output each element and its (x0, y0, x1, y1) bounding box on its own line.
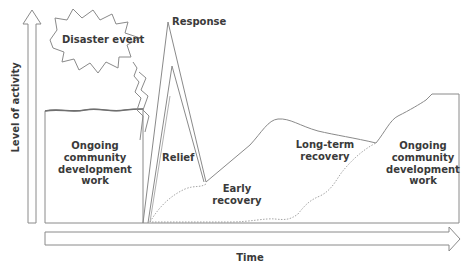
ongoing-development-left-label: Ongoing community development work (55, 140, 135, 187)
x-axis-label: Time (225, 252, 275, 264)
early-recovery-line-2: recovery (212, 195, 262, 207)
early-recovery-line-1: Early (212, 183, 262, 195)
ongoing-development-right-label: Ongoing community development work (383, 140, 463, 187)
ongoing-right-line-4: work (383, 175, 463, 187)
ongoing-right-line-1: Ongoing (383, 140, 463, 152)
response-label: Response (172, 16, 226, 28)
long-term-recovery-label: Long-term recovery (290, 139, 360, 163)
x-axis-arrow (45, 227, 460, 251)
ongoing-left-line-2: community (55, 152, 135, 164)
y-axis-label: Level of activity (10, 73, 21, 153)
long-term-line-1: Long-term (290, 139, 360, 151)
lightning-bolt-2 (139, 72, 149, 132)
relief-curve (148, 66, 204, 223)
ongoing-left-line-4: work (55, 175, 135, 187)
early-recovery-dotted-curve (150, 184, 206, 222)
relief-label: Relief (162, 152, 194, 164)
long-term-line-2: recovery (290, 151, 360, 163)
y-axis-arrow (23, 10, 41, 223)
ongoing-left-line-1: Ongoing (55, 140, 135, 152)
wavy-line (45, 109, 143, 111)
ongoing-left-line-3: development (55, 164, 135, 176)
ongoing-right-line-2: community (383, 152, 463, 164)
early-recovery-label: Early recovery (212, 183, 262, 207)
ongoing-right-line-3: development (383, 164, 463, 176)
disaster-event-label: Disaster event (62, 34, 132, 46)
